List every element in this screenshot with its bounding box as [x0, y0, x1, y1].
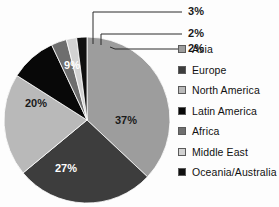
slice-value-label-europe: 27%: [55, 162, 77, 174]
legend-label-latin-america: Latin America: [192, 105, 257, 117]
slice-value-label-latin-america: 9%: [64, 59, 80, 71]
legend-item-europe[interactable]: Europe: [178, 60, 278, 81]
legend-label-europe: Europe: [192, 64, 226, 76]
legend-item-asia[interactable]: Asia: [178, 39, 278, 60]
legend-item-middle-east[interactable]: Middle East: [178, 142, 278, 163]
pie-chart-figure: 37%27%20%9% 3%2%2% AsiaEuropeNorth Ameri…: [0, 0, 279, 207]
legend-label-middle-east: Middle East: [192, 146, 248, 158]
legend-item-africa[interactable]: Africa: [178, 121, 278, 142]
legend-label-north-america: North America: [192, 84, 260, 96]
callout-value-label-africa: 3%: [188, 5, 204, 17]
legend-item-north-america[interactable]: North America: [178, 80, 278, 101]
legend-swatch-middle-east: [178, 148, 186, 156]
slice-value-label-asia: 37%: [115, 114, 137, 126]
legend-label-asia: Asia: [192, 43, 213, 55]
legend-swatch-africa: [178, 127, 186, 135]
legend-item-oceania-australia[interactable]: Oceania/Australia: [178, 162, 278, 183]
pie-slice-group: [4, 37, 170, 203]
legend-item-latin-america[interactable]: Latin America: [178, 101, 278, 122]
callout-value-label-middle-east: 2%: [188, 27, 204, 39]
legend-label-africa: Africa: [192, 125, 219, 137]
legend-swatch-oceania-australia: [178, 168, 186, 176]
legend: AsiaEuropeNorth AmericaLatin AmericaAfri…: [178, 39, 278, 183]
slice-value-label-north-america: 20%: [25, 97, 47, 109]
legend-swatch-europe: [178, 66, 186, 74]
legend-swatch-asia: [178, 45, 186, 53]
legend-label-oceania-australia: Oceania/Australia: [192, 166, 277, 178]
legend-swatch-latin-america: [178, 107, 186, 115]
legend-swatch-north-america: [178, 86, 186, 94]
